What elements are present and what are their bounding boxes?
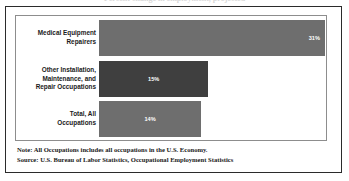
bar-medical-equipment-repairers[interactable]: 31% xyxy=(99,20,325,56)
bar-category-label-line: Total, All xyxy=(70,110,96,117)
bar-track: 15% xyxy=(99,61,326,97)
bar-track: 31% xyxy=(99,20,326,56)
bar-category-label-line: Repair Occupations xyxy=(36,83,96,90)
bar-category-label-line: Other Installation, xyxy=(42,66,96,73)
bar-category-label: Medical Equipment Repairers xyxy=(16,20,98,56)
bar-track: 14% xyxy=(99,101,326,137)
bar-category-label-line: Medical Equipment xyxy=(38,29,96,36)
bar-category-label-line: Occupations xyxy=(57,119,96,126)
figure-frame: Medical Equipment Repairers 31% Other In… xyxy=(5,6,342,173)
bar-row: Medical Equipment Repairers 31% xyxy=(16,20,326,56)
bar-total-all-occupations[interactable]: 14% xyxy=(99,101,201,137)
bar-value-label: 15% xyxy=(148,76,159,82)
bar-category-label-line: Repairers xyxy=(67,38,97,45)
bar-category-label: Total, All Occupations xyxy=(16,101,98,137)
bar-value-label: 14% xyxy=(144,116,155,122)
chart-plot-area: Medical Equipment Repairers 31% Other In… xyxy=(15,15,327,141)
chart-note: Note: All Occupations includes all occup… xyxy=(17,145,332,155)
bar-row: Total, All Occupations 14% xyxy=(16,101,326,137)
bar-value-label: 31% xyxy=(309,35,320,41)
chart-source: Source: U.S. Bureau of Labor Statistics,… xyxy=(17,155,332,165)
clipped-chart-title: Percent change in employment, projected xyxy=(0,0,349,3)
footnotes: Note: All Occupations includes all occup… xyxy=(17,145,332,164)
bar-row: Other Installation, Maintenance, and Rep… xyxy=(16,61,326,97)
bar-other-installation-maintenance-repair[interactable]: 15% xyxy=(99,61,208,97)
bar-category-label-line: Maintenance, and xyxy=(42,75,96,82)
bar-category-label: Other Installation, Maintenance, and Rep… xyxy=(16,61,98,97)
